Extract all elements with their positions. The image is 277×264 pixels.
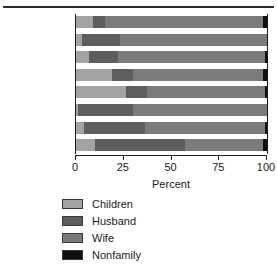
bar-segment-children — [76, 69, 112, 81]
legend-label: Husband — [92, 215, 136, 227]
x-axis-title: Percent — [75, 178, 267, 190]
x-axis-tick-label: 0 — [55, 161, 95, 173]
bar-segment-wife — [147, 86, 265, 98]
legend-label: Children — [92, 198, 133, 210]
plot-area: LaundryShoppingCookingCleaningDishwashin… — [75, 14, 268, 154]
x-axis-tick — [123, 156, 124, 160]
bar-segment-wife — [133, 104, 267, 116]
legend-label: Wife — [92, 232, 114, 244]
legend-swatch-children — [62, 199, 83, 209]
x-axis-tick-label: 50 — [151, 161, 191, 173]
bar-segment-wife — [185, 139, 263, 151]
bar-segment-husband — [82, 34, 120, 46]
bar-segment-husband — [89, 51, 118, 63]
bar-segment-children — [76, 122, 84, 134]
bar-segment-husband — [84, 122, 145, 134]
bar-segment-wife — [133, 69, 263, 81]
legend-swatch-nonfamily — [62, 250, 83, 260]
bar-segment-nonfamily — [263, 139, 267, 151]
bar-row — [76, 139, 267, 151]
bar-segment-nonfamily — [265, 51, 267, 63]
bar-segment-wife — [120, 34, 267, 46]
bar-row — [76, 34, 267, 46]
x-axis-tick-label: 100 — [246, 161, 277, 173]
bar-segment-wife — [105, 16, 264, 28]
top-divider-rule — [3, 6, 274, 8]
chart-legend: ChildrenHusbandWifeNonfamily — [62, 196, 242, 264]
bar-segment-children — [76, 139, 95, 151]
bar-segment-husband — [95, 139, 185, 151]
stacked-bar-chart: LaundryShoppingCookingCleaningDishwashin… — [0, 12, 277, 172]
bar-segment-children — [76, 16, 93, 28]
x-axis-tick-label: 75 — [198, 161, 238, 173]
bar-segment-wife — [118, 51, 265, 63]
bar-row — [76, 16, 267, 28]
legend-label: Nonfamily — [92, 249, 141, 261]
x-axis-tick — [171, 156, 172, 160]
legend-item: Nonfamily — [62, 247, 242, 263]
bar-segment-husband — [93, 16, 104, 28]
bar-row — [76, 69, 267, 81]
legend-swatch-wife — [62, 233, 83, 243]
bar-segment-husband — [112, 69, 133, 81]
bar-row — [76, 104, 267, 116]
bar-segment-nonfamily — [265, 122, 267, 134]
bar-row — [76, 122, 267, 134]
bar-segment-nonfamily — [263, 69, 267, 81]
bar-segment-nonfamily — [263, 16, 267, 28]
bar-segment-husband — [126, 86, 147, 98]
bar-row — [76, 86, 267, 98]
x-axis-tick-label: 25 — [103, 161, 143, 173]
bar-row — [76, 51, 267, 63]
bar-segment-husband — [78, 104, 133, 116]
bar-segment-wife — [145, 122, 265, 134]
x-axis-tick — [218, 156, 219, 160]
bar-segment-nonfamily — [265, 86, 267, 98]
bar-segment-children — [76, 51, 89, 63]
legend-swatch-husband — [62, 216, 83, 226]
legend-item: Children — [62, 196, 242, 212]
legend-item: Husband — [62, 213, 242, 229]
x-axis-tick — [266, 156, 267, 160]
x-axis-tick — [75, 156, 76, 160]
bar-segment-children — [76, 86, 126, 98]
legend-item: Wife — [62, 230, 242, 246]
